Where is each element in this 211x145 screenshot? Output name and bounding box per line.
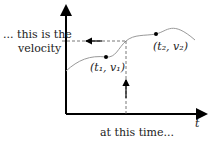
point-2-label: (t₂, v₂)	[153, 41, 188, 53]
point-1	[104, 55, 108, 59]
point-1-label: (t₁, v₁)	[90, 62, 125, 74]
velocity-label-line1: ... this is the	[3, 29, 72, 41]
point-2	[154, 32, 158, 36]
velocity-label-line2: velocity	[18, 43, 61, 55]
time-label: at this time...	[100, 127, 174, 139]
x-axis-label: t	[195, 118, 199, 130]
